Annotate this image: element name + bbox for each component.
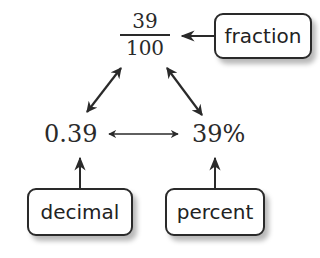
percent-value: 39% bbox=[192, 122, 245, 146]
fraction-numerator: 39 bbox=[118, 10, 172, 32]
decimal-label: decimal bbox=[41, 200, 120, 224]
percent-label-box: percent bbox=[165, 188, 265, 236]
decimal-value: 0.39 bbox=[44, 122, 97, 146]
fraction-label: fraction bbox=[225, 24, 302, 48]
fraction-percent-arrow bbox=[167, 68, 202, 115]
percent-label: percent bbox=[177, 200, 254, 224]
decimal-label-box: decimal bbox=[27, 188, 133, 236]
fraction-value: 39 100 bbox=[118, 10, 172, 59]
fraction-decimal-arrow bbox=[87, 68, 121, 112]
fraction-label-box: fraction bbox=[214, 13, 312, 59]
fraction-denominator: 100 bbox=[118, 37, 172, 59]
